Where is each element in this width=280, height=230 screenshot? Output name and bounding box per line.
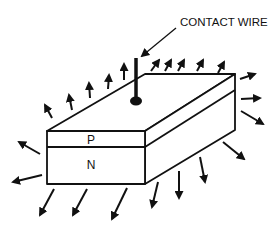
- emission-arrow-bottom: [223, 142, 244, 159]
- emission-arrow-right: [240, 74, 255, 79]
- emission-arrow-top-left-edge: [45, 105, 52, 118]
- emission-arrow-top-back-edge: [178, 60, 184, 71]
- contact-wire-callout: CONTACT WIRE: [142, 16, 268, 56]
- led-emission-diagram: P N CONTACT WIRE: [0, 0, 280, 230]
- emission-arrow-bottom: [40, 189, 54, 215]
- emission-arrow-right: [241, 111, 263, 124]
- emission-arrow-bottom: [112, 188, 127, 219]
- emission-arrow-top-left-edge: [69, 95, 72, 110]
- emission-arrow-left: [13, 175, 42, 182]
- emission-arrow-top-back-edge: [165, 60, 171, 71]
- emission-arrow-top-left-edge: [108, 75, 109, 89]
- emission-arrow-top-back-edge: [197, 60, 203, 71]
- emission-arrow-right: [241, 98, 260, 99]
- p-layer-label: P: [87, 133, 95, 147]
- emission-arrow-top-left-edge: [89, 83, 90, 98]
- leader-arrow: [142, 28, 176, 56]
- chip-box: [47, 74, 235, 184]
- n-layer-label: N: [87, 158, 96, 172]
- contact-wire-label: CONTACT WIRE: [180, 16, 268, 28]
- emission-arrow-bottom: [73, 189, 87, 215]
- emission-arrow-bottom: [152, 182, 158, 207]
- wire-bond-dot: [130, 97, 142, 106]
- emission-arrow-top-back-edge: [151, 60, 159, 71]
- emission-arrow-left: [19, 142, 40, 154]
- front-face: [47, 131, 145, 184]
- emission-arrow-bottom: [200, 157, 205, 182]
- emission-arrow-top-back-edge: [218, 62, 224, 73]
